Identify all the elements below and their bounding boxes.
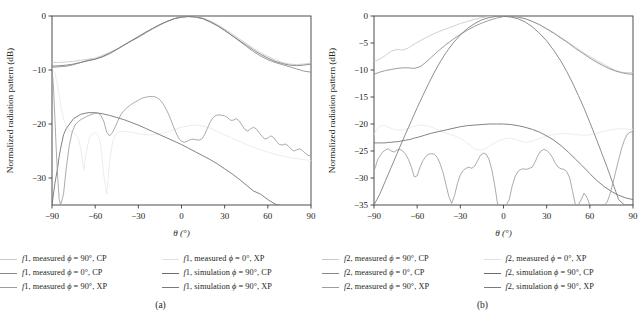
plot-b-xticklabel: −30 [453,211,468,221]
plot-a-xticklabel: −60 [88,211,103,221]
plot-b-frame [374,16,633,205]
legend-a-item: f1, measured ϕ = 0°, XP [162,252,322,266]
plot-a-series-1 [52,68,311,194]
legend-a: f1, measured ϕ = 90°, CPf1, measured ϕ =… [0,252,321,296]
plot-a-series-3 [52,113,279,205]
plot-b-xticklabel: −60 [410,211,425,221]
plot-a-yticklabel: 0 [42,11,47,21]
plot-b-yticklabel: −10 [354,65,369,75]
plot-b-series-3 [374,124,633,200]
plot-a-xticklabel: 60 [263,211,273,221]
plot-b-svg: −90−60−3003060900−5−10−15−20−25−30−35θ (… [322,0,643,250]
legend-a-label: f1, measured ϕ = 90°, XP [22,280,107,294]
plot-b-yticklabel: −20 [354,119,369,129]
plot-b-ylabel: Normalized radiation pattern (dB) [327,48,337,173]
plot-b-xticklabel: 30 [542,211,552,221]
legend-b-item: f2, simulation ϕ = 90°, CP [484,266,643,280]
plot-a-xticklabel: 0 [179,211,184,221]
legend-b-swatch-line-icon [322,287,339,288]
legend-a-swatch-line-icon [0,259,17,260]
legend-a-item: f1, measured ϕ = 0°, CP [0,266,160,280]
legend-b-swatch-line-icon [484,259,501,260]
figure-radiation-patterns: −90−60−3003060900−10−20−30θ (°)Normalize… [0,0,643,327]
legend-a-item: f1, simulation ϕ = 90°, XP [162,280,322,294]
plot-b-xticklabel: 90 [629,211,639,221]
legend-b-item: f2, measured ϕ = 90°, XP [322,280,482,294]
legend-b-swatch-line-icon [322,259,339,260]
plot-b-xticklabel: 60 [585,211,595,221]
plot-a-ylabel: Normalized radiation pattern (dB) [5,48,15,173]
legend-a-item: f1, measured ϕ = 90°, XP [0,280,160,294]
panel-b: −90−60−3003060900−5−10−15−20−25−30−35θ (… [322,0,643,327]
plot-a-series-group [52,16,311,205]
legend-a-item: f1, measured ϕ = 90°, CP [0,252,160,266]
plot-b-yticklabel: −30 [354,173,369,183]
plot-a-series-4 [52,68,311,205]
plot-a-xticklabel: −90 [45,211,60,221]
legend-b-label: f2, measured ϕ = 0°, XP [506,252,587,266]
plot-b: −90−60−3003060900−5−10−15−20−25−30−35θ (… [322,0,643,250]
panel-a: −90−60−3003060900−10−20−30θ (°)Normalize… [0,0,321,327]
legend-a-swatch-line-icon [0,287,17,288]
plot-b-xticklabel: 0 [501,211,506,221]
plot-b-series-4 [374,132,633,205]
legend-a-label: f1, measured ϕ = 0°, CP [22,266,103,280]
legend-b-label: f2, simulation ϕ = 90°, CP [506,266,594,280]
plot-b-series-group [374,16,633,205]
plot-a-xlabel: θ (°) [173,228,190,238]
plot-a-svg: −90−60−3003060900−10−20−30θ (°)Normalize… [0,0,321,250]
plot-b-series-0 [374,16,633,73]
legend-b-item: f2, measured ϕ = 0°, CP [322,266,482,280]
plot-b-xticklabel: −90 [367,211,382,221]
plot-b-yticklabel: −15 [354,92,369,102]
legend-b-label: f2, measured ϕ = 90°, XP [344,280,429,294]
plot-a: −90−60−3003060900−10−20−30θ (°)Normalize… [0,0,321,250]
legend-a-swatch-line-icon [162,259,179,260]
plot-b-series-5 [374,16,633,205]
plot-b-yticklabel: −25 [354,146,369,156]
legend-b-swatch-line-icon [484,273,501,274]
plot-a-xticklabel: 30 [220,211,230,221]
legend-a-label: f1, simulation ϕ = 90°, CP [184,266,272,280]
plot-b-yticklabel: −35 [354,200,369,210]
legend-a-label: f1, measured ϕ = 0°, XP [184,252,265,266]
legend-b: f2, measured ϕ = 90°, CPf2, measured ϕ =… [322,252,643,296]
legend-b-label: f2, measured ϕ = 0°, CP [344,266,425,280]
plot-b-yticklabel: −5 [358,38,368,48]
legend-b-swatch-line-icon [484,287,501,288]
plot-a-yticklabel: −20 [32,119,47,129]
plot-a-series-2 [52,17,311,73]
legend-a-swatch-line-icon [0,273,17,274]
plot-a-xticklabel: 90 [307,211,317,221]
panel-a-caption: (a) [0,300,321,310]
legend-b-item: f2, simulation ϕ = 90°, XP [484,280,643,294]
legend-b-item: f2, measured ϕ = 0°, XP [484,252,643,266]
plot-a-yticklabel: −10 [32,65,47,75]
legend-a-label: f1, measured ϕ = 90°, CP [22,252,107,266]
plot-b-yticklabel: 0 [364,11,369,21]
plot-b-xlabel: θ (°) [495,228,512,238]
legend-a-swatch-line-icon [162,287,179,288]
legend-a-label: f1, simulation ϕ = 90°, XP [184,280,273,294]
plot-b-series-1 [374,125,633,150]
panel-b-caption: (b) [322,300,643,310]
legend-b-item: f2, measured ϕ = 90°, CP [322,252,482,266]
plot-a-yticklabel: −30 [32,173,47,183]
legend-a-item: f1, simulation ϕ = 90°, CP [162,266,322,280]
plot-a-xticklabel: −30 [131,211,146,221]
plot-a-series-0 [52,16,311,64]
legend-a-swatch-line-icon [162,273,179,274]
legend-b-swatch-line-icon [322,273,339,274]
plot-a-frame [52,16,311,205]
legend-b-label: f2, measured ϕ = 90°, CP [344,252,429,266]
legend-b-label: f2, simulation ϕ = 90°, XP [506,280,595,294]
